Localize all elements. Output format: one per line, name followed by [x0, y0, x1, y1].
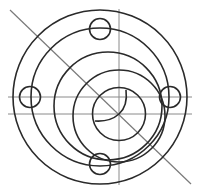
- geometric-drawing: [0, 0, 197, 195]
